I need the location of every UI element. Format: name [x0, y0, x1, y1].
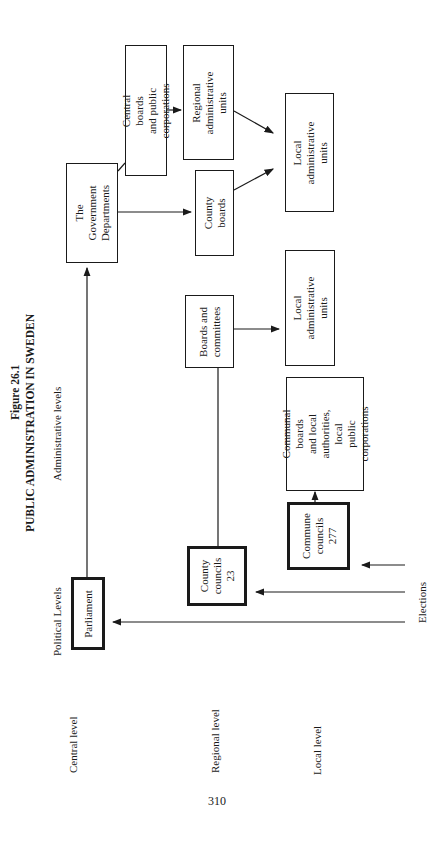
- local-admin-units-central-text: Local administrative units: [290, 121, 329, 184]
- parliament-box: Parliament: [71, 577, 105, 650]
- local-admin-units-regional-text: Local administrative units: [291, 277, 330, 340]
- county-boards-text: County boards: [202, 197, 228, 229]
- elections-label: Elections: [416, 582, 429, 623]
- figure-number: Figure 26.1: [9, 365, 22, 420]
- boards-committees-box: Boards and committees: [185, 295, 234, 368]
- commune-councils-text: Commune councils 277: [299, 513, 338, 559]
- county-boards-box: County boards: [195, 170, 234, 256]
- government-departments-box: The Government Departments: [66, 163, 118, 263]
- regional-level-label: Regional level: [209, 709, 222, 773]
- regional-admin-units-text: Regional administrative units: [189, 71, 228, 134]
- government-departments-text: The Government Departments: [73, 185, 112, 241]
- commune-councils-box: Commune councils 277: [287, 502, 350, 570]
- local-level-label: Local level: [311, 726, 324, 775]
- political-levels-header: Political Levels: [51, 587, 64, 656]
- central-boards-text: Central boards and public corporations: [120, 83, 172, 138]
- regional-admin-units-box: Regional administrative units: [183, 45, 234, 160]
- central-boards-box: Central boards and public corporations: [125, 45, 167, 176]
- county-councils-box: County councils 23: [187, 546, 247, 606]
- local-admin-units-central-box: Local administrative units: [285, 93, 334, 212]
- local-admin-units-regional-box: Local administrative units: [285, 250, 335, 366]
- county-councils-text: County councils 23: [198, 558, 237, 595]
- page-number: 310: [208, 794, 226, 809]
- parliament-text: Parliament: [82, 590, 95, 638]
- administrative-levels-header: Administrative levels: [51, 387, 64, 481]
- figure-title: PUBLIC ADMINISTRATION IN SWEDEN: [24, 314, 37, 532]
- communal-boards-box: Communal boards and local authorities, l…: [286, 377, 364, 491]
- central-level-label: Central level: [67, 716, 80, 773]
- communal-boards-text: Communal boards and local authorities, l…: [280, 407, 371, 462]
- boards-committees-text: Boards and committees: [197, 306, 223, 357]
